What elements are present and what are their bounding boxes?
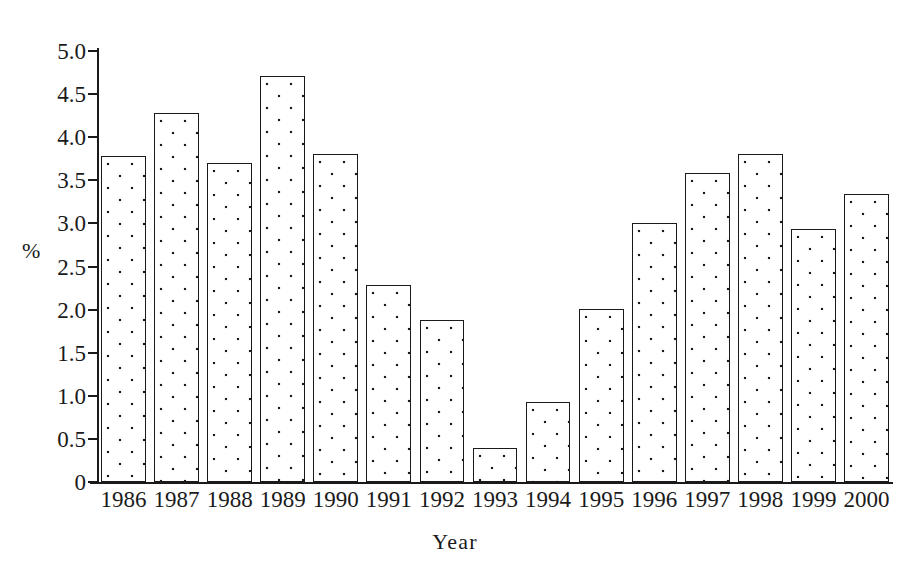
x-tick-label-2000: 2000 (840, 487, 893, 513)
x-tick-label-1999: 1999 (787, 487, 840, 513)
x-axis-tick-labels: 1986198719881989199019911992199319941995… (97, 487, 893, 521)
bar-1987 (154, 113, 199, 482)
x-tick-label-1994: 1994 (522, 487, 575, 513)
x-tick-label-1993: 1993 (468, 487, 521, 513)
bar-1992 (420, 320, 465, 482)
bar-1989 (260, 76, 305, 482)
x-tick-label-1996: 1996 (628, 487, 681, 513)
bar-1993 (473, 448, 518, 482)
x-tick-label-1997: 1997 (681, 487, 734, 513)
bar-2000 (844, 194, 889, 482)
x-tick-label-1992: 1992 (415, 487, 468, 513)
x-tick-label-1991: 1991 (362, 487, 415, 513)
bar-1995 (579, 309, 624, 482)
bar-1997 (685, 173, 730, 482)
x-tick-label-1989: 1989 (256, 487, 309, 513)
x-tick-label-1998: 1998 (734, 487, 787, 513)
bar-1991 (366, 285, 411, 482)
bar-1988 (207, 163, 252, 482)
x-tick-label-1987: 1987 (150, 487, 203, 513)
bar-1999 (791, 229, 836, 482)
bar-chart: % 5.04.54.03.53.02.52.01.51.00.50 198619… (0, 0, 910, 582)
bar-1998 (738, 154, 783, 482)
plot-area (97, 51, 893, 482)
x-tick-label-1990: 1990 (309, 487, 362, 513)
x-tick-label-1986: 1986 (97, 487, 150, 513)
bar-1994 (526, 402, 571, 482)
bar-1990 (313, 154, 358, 482)
x-tick-label-1988: 1988 (203, 487, 256, 513)
x-axis-title: Year (0, 529, 910, 555)
bar-1986 (101, 156, 146, 482)
x-axis-line (90, 482, 893, 484)
bar-1996 (632, 223, 677, 482)
x-tick-label-1995: 1995 (575, 487, 628, 513)
